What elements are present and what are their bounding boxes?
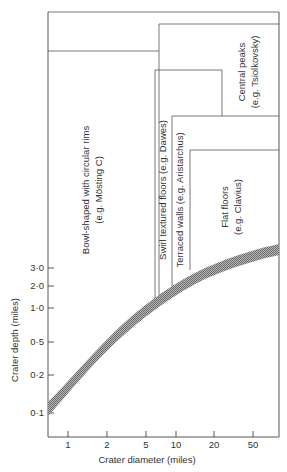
svg-text:0·2: 0·2 bbox=[30, 369, 44, 380]
svg-text:5: 5 bbox=[143, 439, 148, 450]
svg-text:0·5: 0·5 bbox=[30, 336, 44, 347]
flat-floors-label-1: Flat floors bbox=[219, 186, 230, 228]
x-ticks bbox=[68, 431, 253, 437]
svg-text:1·0: 1·0 bbox=[30, 302, 44, 313]
svg-text:3·0: 3·0 bbox=[30, 262, 44, 273]
bowl-label-2: (e.g. Mösting C) bbox=[93, 156, 104, 224]
central-peaks-label-2: (e.g. Tsiolkovsky) bbox=[249, 36, 260, 109]
svg-text:2·0: 2·0 bbox=[30, 280, 44, 291]
svg-text:1: 1 bbox=[65, 439, 70, 450]
y-ticks bbox=[48, 268, 54, 413]
depth-diameter-band bbox=[48, 244, 279, 416]
region-labels: Bowl-shaped with circular rims (e.g. Mös… bbox=[80, 36, 260, 268]
central-peaks-label-1: Central peaks bbox=[236, 42, 247, 101]
svg-text:2: 2 bbox=[104, 439, 109, 450]
svg-text:0·1: 0·1 bbox=[30, 407, 44, 418]
x-tick-labels: 1 2 5 10 20 50 bbox=[65, 439, 258, 450]
svg-text:20: 20 bbox=[209, 439, 220, 450]
y-axis-title: Crater depth (miles) bbox=[9, 298, 20, 382]
svg-text:10: 10 bbox=[171, 439, 182, 450]
swirl-label: Swirl textured floors (e.g. Dawes) bbox=[157, 120, 168, 260]
crater-chart: 0·1 0·2 0·5 1·0 2·0 3·0 1 2 5 10 20 50 C… bbox=[0, 0, 287, 472]
terraced-label: Terraced walls (e.g. Aristarchus) bbox=[174, 132, 185, 267]
x-axis-title: Crater diameter (miles) bbox=[98, 454, 195, 465]
flat-floors-label-2: (e.g. Clavius) bbox=[232, 179, 243, 235]
svg-text:50: 50 bbox=[248, 439, 259, 450]
y-tick-labels: 0·1 0·2 0·5 1·0 2·0 3·0 bbox=[30, 262, 44, 418]
bowl-label-1: Bowl-shaped with circular rims bbox=[80, 126, 91, 255]
